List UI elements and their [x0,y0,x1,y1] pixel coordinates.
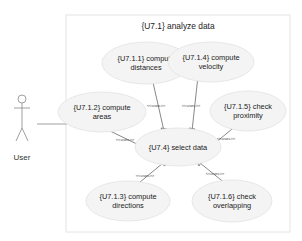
use-case-label: areas [93,112,112,121]
use-case-label: overlapping [213,201,251,210]
use-case-label: directions [112,201,144,210]
stereotype-label: <<uses>> [136,173,155,178]
use-case-compute-velocity[interactable]: {U7.1.4} compute velocity [168,42,254,82]
stereotype-label: <<uses>> [182,103,201,108]
stereotype-label: <<uses>> [206,171,225,176]
use-case-compute-areas[interactable]: {U7.1.2} compute areas [58,92,146,132]
stick-figure-icon [14,95,30,141]
use-case-select-data[interactable]: {U7.4} select data [135,128,221,166]
use-case-label: {U7.1.4} compute [182,53,239,62]
use-case-compute-directions[interactable]: {U7.1.3} compute directions [86,181,170,221]
use-case-label: {U7.1.1} compute [117,54,174,63]
actor-label: User [14,153,31,162]
use-case-label: {U7.1.2} compute [73,103,130,112]
system-boundary-title: {U7.1} analyze data [141,21,214,31]
use-case-label: velocity [199,62,224,71]
use-case-label: proximity [233,111,263,120]
use-case-label: distances [130,63,162,72]
use-case-check-overlapping[interactable]: {U7.1.6} check overlapping [192,180,272,222]
use-case-label: {U7.1.5} check [224,102,272,111]
use-case-label: {U7.1.6} check [208,192,256,201]
actor-user[interactable]: User [14,95,31,162]
use-case-label: {U7.1.3} compute [99,192,156,201]
stereotype-label: <<uses>> [116,137,135,142]
stereotype-label: <<uses>> [217,136,236,141]
use-case-check-proximity[interactable]: {U7.1.5} check proximity [210,91,286,131]
use-case-label: {U7.4} select data [149,143,208,152]
stereotype-label: <<uses>> [147,103,166,108]
